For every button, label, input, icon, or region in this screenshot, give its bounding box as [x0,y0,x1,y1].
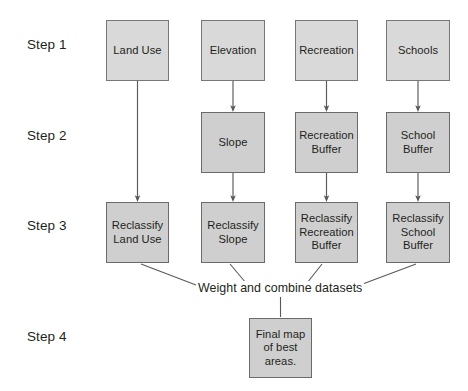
node-reclassify-school-buffer[interactable]: Reclassify School Buffer [386,202,450,263]
node-recreation-label: Recreation [299,44,354,58]
node-reclassify-slope-label: Reclassify Slope [205,219,261,246]
step-label-4: Step 4 [27,329,67,345]
node-slope-label: Slope [205,136,261,150]
node-reclassify-land-use-label: Reclassify Land Use [110,219,165,246]
node-schools[interactable]: Schools [386,20,450,81]
node-final-map[interactable]: Final map of best areas. [249,318,312,378]
node-reclassify-school-buffer-label: Reclassify School Buffer [390,212,446,253]
node-school-buffer[interactable]: School Buffer [386,112,450,173]
line-reclassify-landuse-to-combine [141,264,196,285]
node-slope[interactable]: Slope [201,112,265,173]
node-reclassify-recreation-buffer-label: Reclassify Recreation Buffer [299,212,354,253]
node-recreation-buffer-label: Recreation Buffer [299,129,354,156]
step-label-3: Step 3 [27,218,67,234]
node-elevation[interactable]: Elevation [201,20,265,81]
node-reclassify-land-use[interactable]: Reclassify Land Use [106,202,169,263]
step-label-1: Step 1 [27,37,67,53]
node-land-use-label: Land Use [110,44,165,58]
node-reclassify-slope[interactable]: Reclassify Slope [201,202,265,263]
node-recreation-buffer[interactable]: Recreation Buffer [295,112,358,173]
flowchart-diagram: Step 1 Step 2 Step 3 Step 4 Land Use Ele… [0,0,468,391]
step-label-2: Step 2 [27,128,67,144]
node-elevation-label: Elevation [205,44,261,58]
node-schools-label: Schools [390,44,446,58]
combine-caption: Weight and combine datasets [196,281,364,296]
node-reclassify-recreation-buffer[interactable]: Reclassify Recreation Buffer [295,202,358,263]
node-school-buffer-label: School Buffer [390,129,446,156]
node-final-map-label: Final map of best areas. [253,328,308,369]
node-land-use[interactable]: Land Use [106,20,169,81]
node-recreation[interactable]: Recreation [295,20,358,81]
